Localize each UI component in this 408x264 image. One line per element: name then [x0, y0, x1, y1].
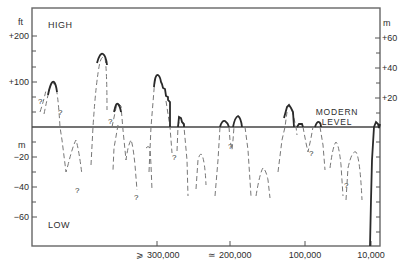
x-10k-label: 10,000	[357, 250, 385, 260]
modern-label-line2: LEVEL	[322, 117, 352, 127]
svg-text:?: ?	[172, 153, 177, 162]
svg-text:?: ?	[75, 186, 80, 195]
modern-label-line1: MODERN	[316, 107, 359, 117]
ft-unit-label: ft	[18, 17, 24, 27]
x-200k-label: ≃ 200,000	[208, 250, 251, 260]
svg-text:?: ?	[134, 193, 139, 202]
svg-text:?: ?	[309, 149, 314, 158]
x-300k-label: ⩾ 300,000	[136, 250, 179, 260]
sea-level-chart: ft +200 +100 m −20 −40 −60 m +60 +40 +20…	[0, 0, 408, 264]
ft-200-label: +200	[9, 31, 29, 41]
inferred-sea-level-curve	[40, 57, 362, 200]
m-unit-right-label: m	[383, 18, 391, 28]
right-axis-ticks	[375, 38, 380, 232]
x-axis-ticks	[157, 241, 371, 246]
low-label: LOW	[48, 220, 70, 230]
documented-sea-level-curve	[48, 54, 380, 246]
m-60-label: +60	[382, 33, 397, 43]
m-20-label: +20	[382, 93, 397, 103]
svg-text:?: ?	[38, 97, 43, 106]
high-label: HIGH	[48, 20, 73, 30]
m-neg40-label: −40	[14, 182, 29, 192]
ft-100-label: +100	[9, 77, 29, 87]
m-neg20-label: −20	[14, 152, 29, 162]
m-neg60-label: −60	[14, 212, 29, 222]
uncertainty-marks: ? ? ? ? ? ? ? ? ?	[38, 97, 349, 202]
m-40-label: +40	[382, 63, 397, 73]
m-unit-left-label: m	[18, 140, 26, 150]
x-100k-label: 100,000	[289, 250, 322, 260]
